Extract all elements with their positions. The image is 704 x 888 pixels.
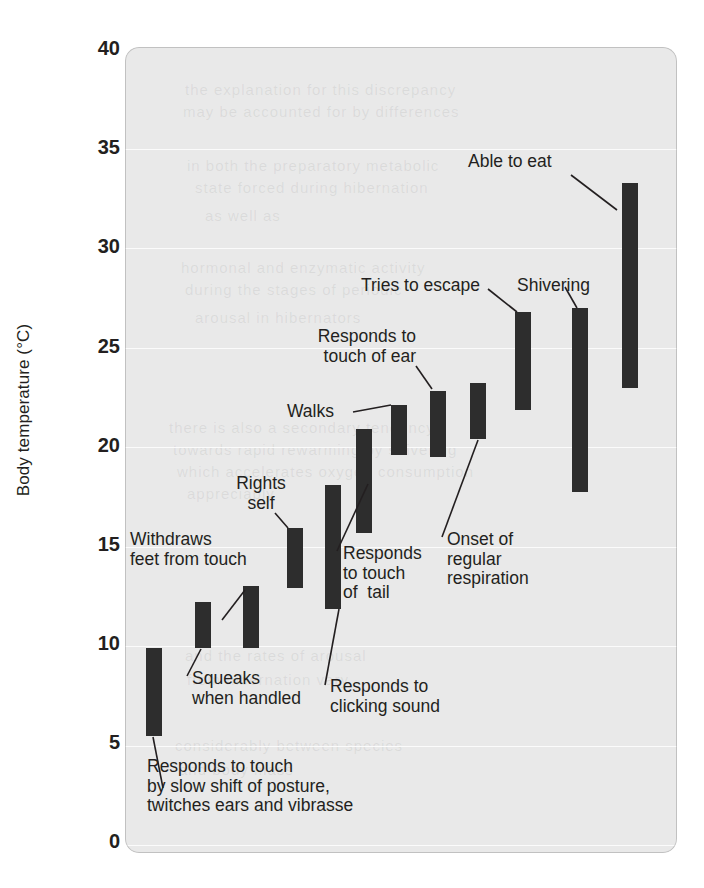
y-tick-25: 25 [74,336,120,356]
leader-tries-to-escape [488,289,517,312]
annotation-walks: Walks [287,402,334,422]
gridline-5 [125,746,677,747]
annotation-clicking-sound: Responds to clicking sound [330,677,440,716]
y-tick-40: 40 [74,38,120,58]
gridline-30 [125,248,677,249]
gridline-0 [125,845,677,846]
annotation-squeaks: Squeaks when handled [192,669,301,708]
y-axis-title: Body temperature (°C) [14,250,38,570]
bar-responds-to-touch[interactable] [146,648,162,736]
bar-rights-self[interactable] [287,528,303,588]
annotation-tries-to-escape: Tries to escape [361,276,480,296]
y-tick-20: 20 [74,435,120,455]
bar-onset-respiration[interactable] [470,383,486,439]
annotation-onset-resp: Onset of regular respiration [447,530,529,589]
y-tick-35: 35 [74,137,120,157]
leader-walks [353,405,391,412]
leader-onset-resp [442,440,478,537]
bar-withdraws-feet[interactable] [243,586,259,648]
y-tick-10: 10 [74,633,120,653]
annotation-able-to-eat: Able to eat [468,152,552,172]
y-tick-30: 30 [74,236,120,256]
bar-clicking-sound[interactable] [325,485,341,609]
annotation-rights-self: Rights self [225,474,297,513]
leader-rights-self [275,513,288,528]
bar-responds-ear[interactable] [430,391,446,457]
plot-area: the explanation for this discrepancy may… [125,47,677,853]
annotation-responds-tail: Responds to touch of tail [343,544,422,603]
leader-clicking-sound [325,609,339,685]
bar-walks[interactable] [391,405,407,455]
y-axis-tick-labels: 40 35 30 25 20 15 10 5 0 [62,0,120,888]
annotation-responds-ear: Responds to touch of ear [274,327,416,366]
bar-squeaks[interactable] [195,602,211,648]
y-tick-5: 5 [74,732,120,752]
y-tick-15: 15 [74,534,120,554]
bar-shivering[interactable] [572,308,588,492]
bar-able-to-eat[interactable] [622,183,638,388]
annotation-withdraws-feet: Withdraws feet from touch [130,530,247,569]
annotation-shivering: Shivering [517,276,590,296]
chart-figure: Body temperature (°C) 40 35 30 25 20 15 … [0,0,704,888]
gridline-35 [125,149,677,150]
bar-tries-to-escape[interactable] [515,312,531,410]
y-tick-0: 0 [74,831,120,851]
leader-responds-ear [416,366,432,389]
bar-responds-tail[interactable] [356,429,372,533]
leader-withdraws-feet [222,590,245,620]
leader-able-to-eat [571,175,617,210]
annotation-responds-touch: Responds to touch by slow shift of postu… [147,757,353,816]
